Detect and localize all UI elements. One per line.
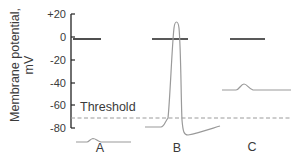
y-axis-title-line1: Membrane potential,	[8, 8, 22, 122]
y-axis-title: Membrane potential, mV	[8, 8, 36, 122]
y-tick-label: 0	[60, 31, 66, 43]
y-axis-title-line2: mV	[22, 55, 36, 74]
threshold-label: Threshold	[80, 100, 136, 114]
y-axis: +20 0 -20 -40 -60 -80	[47, 8, 75, 134]
trace-label-b: B	[173, 141, 181, 155]
y-tick-label: -20	[50, 54, 66, 66]
chart-canvas: Membrane potential, mV +20 0 -20 -40 -60…	[0, 0, 306, 158]
y-tick-label: -80	[50, 122, 66, 134]
y-tick-label: -60	[50, 99, 66, 111]
membrane-potential-chart: Membrane potential, mV +20 0 -20 -40 -60…	[0, 0, 306, 158]
trace-c	[222, 84, 291, 90]
y-tick-label: +20	[47, 8, 66, 20]
trace-label-c: C	[247, 140, 256, 154]
trace-label-a: A	[96, 141, 105, 155]
y-tick-label: -40	[50, 77, 66, 89]
